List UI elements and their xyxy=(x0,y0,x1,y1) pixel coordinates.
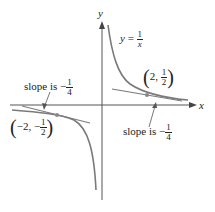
slope-label-left: slope is −14 xyxy=(24,78,73,97)
y-axis-label: y xyxy=(98,8,103,19)
y-axis-arrow-icon xyxy=(99,21,105,29)
point-2-half xyxy=(145,93,149,97)
x-axis-label: x xyxy=(199,100,204,111)
slope-label-right: slope is −14 xyxy=(123,123,172,142)
point-label-right: (2, 12) xyxy=(143,67,174,87)
x-axis-arrow-icon xyxy=(189,102,197,108)
slope-pointer-left-arrowhead-icon xyxy=(42,103,47,110)
point-neg2-neghalf xyxy=(55,113,59,117)
point-label-left: (−2, −12) xyxy=(10,117,53,137)
function-label: y = 1x xyxy=(120,30,143,49)
graph-canvas xyxy=(0,0,215,212)
